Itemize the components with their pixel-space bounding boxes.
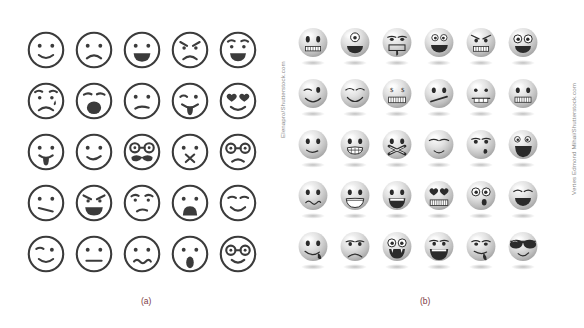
emoticon-skeptical-flat-mouth-face xyxy=(22,177,70,228)
emoticon-big-smile-face xyxy=(418,22,460,73)
cheerful-open-smile-face-icon xyxy=(377,177,417,222)
panel-b-glossy-emoticons: $$ xyxy=(292,22,544,280)
angry-face-icon xyxy=(169,29,211,71)
emoticon-frowning-sad-face xyxy=(334,226,376,277)
yawning-face-icon xyxy=(73,80,115,122)
emoticon-surprised-small-mouth-face xyxy=(460,175,502,226)
vampire-fangs-face-icon xyxy=(377,228,417,273)
smirking-face-icon xyxy=(73,131,115,173)
angry-gritted-teeth-face-icon xyxy=(461,24,501,69)
laughing-open-mouth-face-icon xyxy=(121,29,163,71)
smiling-glasses-face-icon xyxy=(217,233,259,275)
mustache-glasses-face-icon xyxy=(121,131,163,173)
emoticon-cheerful-open-smile-face xyxy=(376,175,418,226)
emoticon-happy-open-mouth-face xyxy=(502,22,544,73)
emoticon-vampire-fangs-face xyxy=(376,226,418,277)
emoticon-cyclops-one-eye-face xyxy=(334,22,376,73)
emoticon-tongue-out-face xyxy=(22,126,70,177)
relieved-face-icon xyxy=(419,126,459,171)
winking-smile-face-icon xyxy=(293,75,333,120)
shouting-open-mouth-face-icon xyxy=(503,126,543,171)
worried-crying-face-icon xyxy=(25,80,67,122)
frowning-sad-face-icon xyxy=(335,228,375,273)
cyclops-one-eye-face-icon xyxy=(335,24,375,69)
emoticon-smirking-face xyxy=(70,126,118,177)
emoticon-winking-smile-face xyxy=(292,73,334,124)
emoticon-heart-eyes-grin-face xyxy=(418,175,460,226)
emoticon-content-smiling-face xyxy=(334,73,376,124)
heart-eyes-grin-face-icon xyxy=(419,177,459,222)
emoticon-nervous-teeth-face xyxy=(334,124,376,175)
grinning-raised-eyebrow-face-icon xyxy=(217,29,259,71)
tongue-out-face-icon xyxy=(25,131,67,173)
emoticon-money-eyes-face: $$ xyxy=(376,73,418,124)
emoticon-grinning-raised-eyebrow-face xyxy=(214,24,262,75)
emoticon-neutral-face xyxy=(70,228,118,279)
glossy-emoticon-grid: $$ xyxy=(292,22,544,277)
emoticon-smiling-face xyxy=(22,24,70,75)
bandaged-mouth-face-icon xyxy=(377,126,417,171)
emoticon-uneasy-wavy-mouth-face xyxy=(292,175,334,226)
emoticon-content-closed-eyes-face xyxy=(214,177,262,228)
smiling-face-icon xyxy=(25,29,67,71)
panel-a-lineart-emoticons xyxy=(22,24,262,279)
emoticon-tired-drooling-face xyxy=(376,22,418,73)
zipped-mouth-face-icon xyxy=(461,75,501,120)
emoticon-bandaged-mouth-face xyxy=(376,124,418,175)
emoticon-laughing-open-mouth-face xyxy=(118,24,166,75)
sunglasses-cool-face-icon xyxy=(503,228,543,273)
confused-face-icon xyxy=(121,80,163,122)
emoticon-frowning-glasses-face xyxy=(214,126,262,177)
emoticon-sunglasses-cool-face xyxy=(502,226,544,277)
flat-slanted-mouth-face-icon xyxy=(419,75,459,120)
emoticon-sad-face xyxy=(70,24,118,75)
heart-eyes-face-icon xyxy=(217,80,259,122)
uneasy-wavy-mouth-face-icon xyxy=(293,177,333,222)
svg-text:$: $ xyxy=(390,86,394,93)
emoticon-rolling-eyes-face xyxy=(118,177,166,228)
emoticon-zipped-mouth-face xyxy=(460,73,502,124)
emoticon-sealed-lips-x-mouth-face xyxy=(166,126,214,177)
laughing-closed-eyes-face-icon xyxy=(503,177,543,222)
joyful-big-mouth-face-icon xyxy=(419,228,459,273)
unamused-wavy-mouth-face-icon xyxy=(121,233,163,275)
emoticon-angry-gritted-teeth-face xyxy=(460,22,502,73)
emoticon-angry-face xyxy=(166,24,214,75)
frowning-glasses-face-icon xyxy=(217,131,259,173)
panel-a-caption: (a) xyxy=(141,296,151,306)
emoticon-mischievous-grin-face xyxy=(70,177,118,228)
emoticon-sad-open-mouth-face xyxy=(166,177,214,228)
winking-tongue-out-face-icon xyxy=(169,80,211,122)
panel-a-credit: Elenapro/Shutterstock.com xyxy=(279,61,286,138)
surprised-small-mouth-face-icon xyxy=(461,177,501,222)
big-smile-face-icon xyxy=(419,24,459,69)
lineart-emoticon-grid xyxy=(22,24,262,279)
emoticon-mustache-glasses-face xyxy=(118,126,166,177)
emoticon-winking-tongue-out-face xyxy=(166,75,214,126)
sad-open-mouth-face-icon xyxy=(169,182,211,224)
happy-open-mouth-face-icon xyxy=(503,24,543,69)
emoticon-unamused-wavy-mouth-face xyxy=(118,228,166,279)
emoticon-winking-smile-face xyxy=(22,228,70,279)
emoticon-gritted-teeth-face xyxy=(292,22,334,73)
emoticon-licking-lips-face xyxy=(292,226,334,277)
panel-b-caption: (b) xyxy=(420,296,430,306)
svg-text:$: $ xyxy=(401,86,405,93)
emoticon-toothy-grin-face xyxy=(502,73,544,124)
emoticon-worried-crying-face xyxy=(22,75,70,126)
emoticon-sleepy-drooling-face xyxy=(460,226,502,277)
sad-face-icon xyxy=(73,29,115,71)
emoticon-relieved-face xyxy=(418,124,460,175)
licking-lips-face-icon xyxy=(293,228,333,273)
emoticon-joyful-big-mouth-face xyxy=(418,226,460,277)
emoticon-heart-eyes-face xyxy=(214,75,262,126)
emoticon-laughing-closed-eyes-face xyxy=(502,175,544,226)
sad-tear-face-icon xyxy=(461,126,501,171)
emoticon-slight-smile-face xyxy=(292,124,334,175)
emoticon-wide-toothy-smile-face xyxy=(334,175,376,226)
sealed-lips-x-mouth-face-icon xyxy=(169,131,211,173)
toothy-grin-face-icon xyxy=(503,75,543,120)
winking-smile-face-icon xyxy=(25,233,67,275)
tired-drooling-face-icon xyxy=(377,24,417,69)
nervous-teeth-face-icon xyxy=(335,126,375,171)
